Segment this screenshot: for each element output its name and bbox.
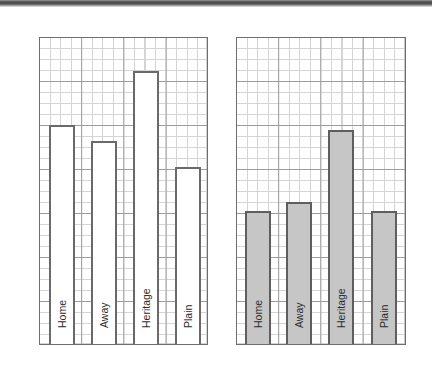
bar-chart-filled: Home Away Heritage Plain xyxy=(236,37,406,345)
bar-heritage: Heritage xyxy=(328,130,354,344)
bar-label-away: Away xyxy=(294,302,305,328)
bar-chart-outline: Home Away Heritage Plain xyxy=(39,37,208,345)
bar-label-home: Home xyxy=(253,299,264,327)
bar-home: Home xyxy=(245,211,271,344)
bar-label-heritage: Heritage xyxy=(141,288,152,328)
bar-label-away: Away xyxy=(99,302,110,328)
bar-label-plain: Plain xyxy=(183,304,194,327)
bar-label-plain: Plain xyxy=(379,304,390,327)
bar-away: Away xyxy=(91,141,117,344)
bar-heritage: Heritage xyxy=(133,71,159,344)
bar-plain: Plain xyxy=(175,167,201,344)
bar-away: Away xyxy=(286,202,312,344)
bar-home: Home xyxy=(49,125,75,344)
bar-label-heritage: Heritage xyxy=(336,288,347,328)
bar-label-home: Home xyxy=(57,299,68,327)
top-border-band xyxy=(0,0,432,7)
bar-plain: Plain xyxy=(371,211,397,344)
